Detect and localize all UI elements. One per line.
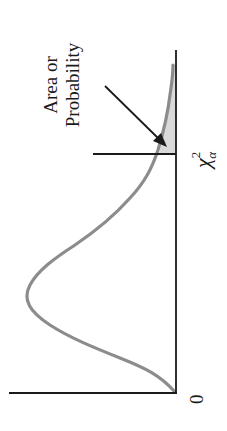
chi-square-diagram [0, 0, 227, 431]
annotation-line-2: Probability [62, 32, 84, 138]
annotation-line-1: Area or [40, 32, 62, 138]
chi-symbol: χ [190, 158, 215, 168]
annotation-arrow-shaft [105, 86, 160, 140]
chi-subscript: α [204, 152, 219, 159]
origin-label-text: 0 [186, 395, 208, 405]
chi-superscript: 2 [188, 152, 203, 159]
